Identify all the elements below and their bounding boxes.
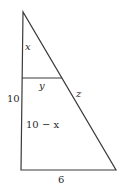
outer-triangle bbox=[21, 12, 116, 170]
triangle-diagram: x y z 10 10 − x 6 bbox=[0, 0, 125, 190]
label-x: x bbox=[25, 41, 31, 52]
label-z: z bbox=[75, 88, 82, 99]
label-y: y bbox=[38, 80, 45, 91]
label-6: 6 bbox=[58, 174, 64, 185]
label-10: 10 bbox=[7, 93, 20, 104]
label-10-minus-x: 10 − x bbox=[26, 119, 59, 130]
